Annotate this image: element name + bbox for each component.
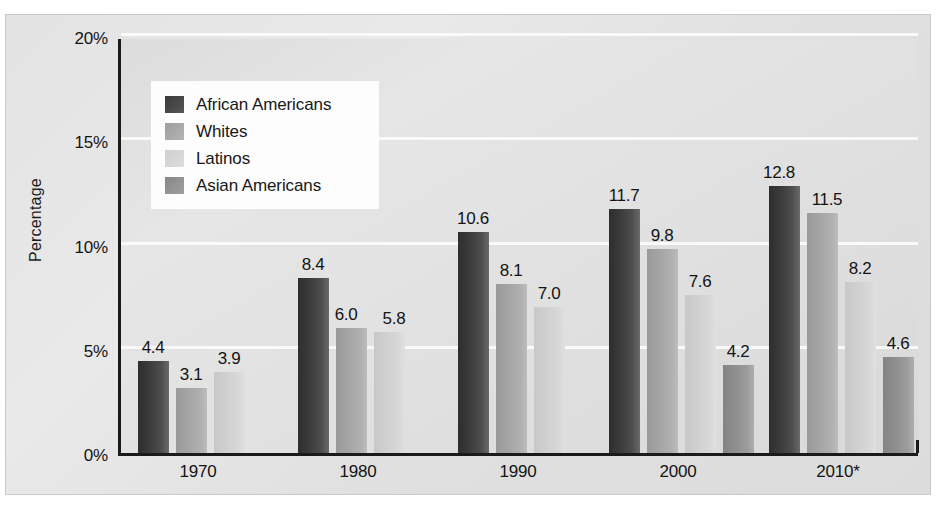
bar-whites-1990[interactable]: 8.1 [496,284,527,453]
bar-whites-1970[interactable]: 3.1 [176,388,207,453]
bar-latinos-1990[interactable]: 7.0 [534,307,565,453]
bar-asian-2010star[interactable]: 4.6 [883,357,914,453]
x-tick-label-2010star: 2010* [816,462,859,482]
y-axis-title: Percentage [27,140,45,300]
bar-latinos-2010star[interactable]: 8.2 [845,282,876,453]
bar-value-label: 4.2 [727,342,750,362]
bar-african-1990[interactable]: 10.6 [458,232,489,453]
y-tick-label: 5% [52,342,108,362]
legend-swatch-icon [165,150,184,167]
bar-whites-2000[interactable]: 9.8 [647,249,678,453]
bar-asian-2000[interactable]: 4.2 [723,365,754,453]
bar-latinos-1980[interactable]: 5.8 [374,332,405,453]
bar-whites-2010star[interactable]: 11.5 [807,213,838,453]
bar-african-2000[interactable]: 11.7 [609,209,640,453]
x-tick-label-1970: 1970 [179,462,216,482]
y-axis-tick-labels: 0%5%10%15%20% [46,15,108,496]
legend-item-whites[interactable]: Whites [165,118,367,145]
x-tick-label-1990: 1990 [499,462,536,482]
y-tick-label: 20% [52,29,108,49]
bar-value-label: 11.7 [609,186,640,206]
bar-value-label: 9.8 [651,226,674,246]
bar-whites-1980[interactable]: 6.0 [336,328,367,453]
bar-latinos-1970[interactable]: 3.9 [214,372,245,453]
x-tick-label-1980: 1980 [339,462,376,482]
legend-item-label: Latinos [196,149,250,169]
legend-swatch-icon [165,177,184,194]
chart-legend: African AmericansWhitesLatinosAsian Amer… [151,81,379,209]
bar-value-label: 7.0 [538,284,561,304]
bar-value-label: 7.6 [689,272,712,292]
x-tick-label-2000: 2000 [659,462,696,482]
bar-african-2010star[interactable]: 12.8 [769,186,800,453]
gridline-20 [121,33,918,36]
y-tick-label: 15% [52,133,108,153]
bar-value-label: 12.8 [763,163,795,183]
bar-value-label: 4.6 [887,334,910,354]
legend-swatch-icon [165,123,184,140]
legend-item-label: Asian Americans [196,176,321,196]
legend-item-label: Whites [196,122,247,142]
bar-value-label: 3.1 [180,365,203,385]
y-tick-label: 10% [52,238,108,258]
bar-african-1980[interactable]: 8.4 [298,278,329,453]
y-tick-label: 0% [52,446,108,466]
x-axis-tick-labels: 19701980199020002010* [118,462,918,492]
legend-item-african[interactable]: African Americans [165,91,367,118]
chart-figure: Percentage 0%5%10%15%20% 4.43.13.98.46.0… [5,14,931,495]
bar-value-label: 5.8 [383,309,406,329]
bar-value-label: 4.4 [142,338,165,358]
bar-latinos-2000[interactable]: 7.6 [685,295,716,453]
bar-value-label: 10.6 [457,209,489,229]
legend-item-latinos[interactable]: Latinos [165,145,367,172]
legend-item-label: African Americans [196,95,331,115]
bar-value-label: 11.5 [812,190,843,210]
bar-value-label: 6.0 [335,305,358,325]
bar-value-label: 8.1 [500,261,523,281]
bar-african-1970[interactable]: 4.4 [138,361,169,453]
bar-value-label: 8.4 [302,255,325,275]
legend-item-asian[interactable]: Asian Americans [165,172,367,199]
x-axis-right-cap [916,440,919,453]
bar-value-label: 8.2 [849,259,872,279]
legend-swatch-icon [165,96,184,113]
bar-value-label: 3.9 [218,349,241,369]
